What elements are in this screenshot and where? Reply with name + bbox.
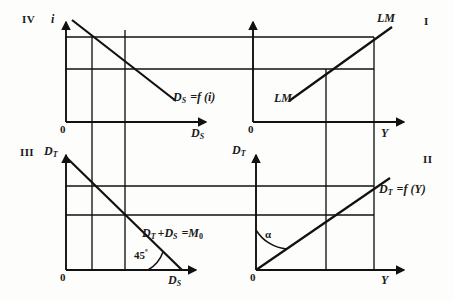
quadrant-label-iii: III — [20, 147, 34, 158]
curve-label-lm-outer: LM — [377, 12, 395, 24]
angle-label-45-degree: º — [145, 248, 148, 257]
origin-label-q4: 0 — [60, 124, 66, 135]
quadrant-iii-axes — [66, 155, 196, 270]
curve-label-dt-f-y-sub: T — [388, 188, 393, 197]
origin-label-q2: 0 — [250, 272, 256, 283]
curve-ds-f-i — [72, 20, 176, 101]
axis-label-ds-q4-sub: S — [200, 132, 204, 141]
curve-label-m0-rest: =M — [182, 226, 200, 240]
curve-label-lm-inner: LM — [274, 92, 292, 104]
curve-label-dt-f-y-rest: =f (Y) — [397, 182, 426, 196]
curve-label-dt-f-y: DT=f (Y) — [379, 183, 426, 197]
axis-label-ds-q4: DS — [191, 127, 204, 141]
diagram-canvas: IV I III II i 0 DS DS=f (i) LM LM 0 Y DT… — [0, 0, 454, 300]
angle-label-45: 45º — [134, 249, 148, 261]
curve-label-ds-f-i-main: D — [173, 90, 182, 104]
axis-label-dt-q3-main: D — [44, 144, 53, 158]
curve-label-m0-dt: D — [142, 226, 151, 240]
axis-label-ds-q3-main: D — [168, 273, 177, 287]
curve-label-dt-f-y-main: D — [379, 182, 388, 196]
axis-label-i-q4: i — [51, 13, 54, 25]
curve-label-m0-ds-sub: S — [173, 232, 177, 241]
axis-label-ds-q4-main: D — [191, 126, 200, 140]
quadrant-label-i: I — [424, 16, 429, 27]
axis-label-ds-q3: DS — [168, 274, 181, 288]
axis-label-y-q2: Y — [381, 274, 388, 286]
angle-label-alpha: α — [265, 229, 271, 240]
four-quadrant-diagram — [0, 0, 454, 300]
axis-label-y-q1: Y — [381, 127, 388, 139]
origin-label-q3: 0 — [60, 272, 66, 283]
angle-label-45-value: 45 — [134, 249, 145, 261]
quadrant-label-ii: II — [423, 154, 432, 165]
guide-grid — [66, 30, 374, 270]
axis-label-dt-q3-sub: T — [53, 150, 58, 159]
curve-lm — [289, 27, 392, 101]
curve-label-m0-zero: 0 — [199, 232, 203, 241]
angle-arc-alpha — [256, 230, 287, 249]
axis-label-dt-q2: DT — [232, 144, 246, 158]
angle-arc-45 — [148, 252, 163, 270]
curve-label-m0-dt-sub: T — [151, 232, 156, 241]
axis-label-dt-q3: DT — [44, 145, 58, 159]
curve-label-ds-f-i-rest: =f (i) — [190, 90, 215, 104]
curve-label-ds-f-i: DS=f (i) — [173, 91, 215, 105]
quadrant-ii-axes — [256, 155, 404, 270]
axis-label-dt-q2-main: D — [232, 143, 241, 157]
curve-label-m0: DT+DS=M0 — [142, 227, 203, 241]
quadrant-label-iv: IV — [22, 14, 35, 25]
curve-dt-f-y — [256, 178, 390, 270]
curve-label-ds-f-i-sub: S — [182, 96, 186, 105]
axis-label-dt-q2-sub: T — [241, 149, 246, 158]
axis-label-ds-q3-sub: S — [177, 279, 181, 288]
curve-label-m0-plus: +D — [158, 226, 174, 240]
origin-label-q1: 0 — [248, 124, 254, 135]
